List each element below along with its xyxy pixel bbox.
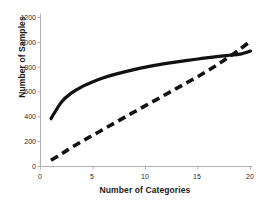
dashed-curve	[51, 41, 251, 160]
axis-lines	[41, 14, 253, 167]
chart-figure: Number of Samples Number of Categories 1…	[0, 0, 264, 204]
plot-area	[0, 0, 264, 204]
data-series	[51, 41, 251, 160]
